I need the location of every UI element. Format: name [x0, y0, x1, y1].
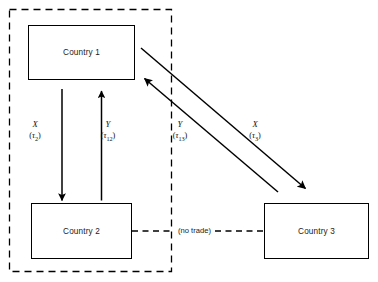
- node-country-2[interactable]: Country 2: [31, 203, 132, 259]
- flow-good-y-tau12: Y: [93, 118, 123, 130]
- flow-tariff-y-tau12: (τ12): [93, 130, 123, 144]
- flow-tariff-y-tau13: (τ13): [165, 130, 195, 144]
- tau-subscript-y-tau12: 12: [106, 135, 112, 142]
- flow-label-y-tau12: Y (τ12): [93, 118, 123, 144]
- flow-label-y-tau13: Y (τ13): [165, 118, 195, 144]
- flow-good-y-tau13: Y: [165, 118, 195, 130]
- flow-tariff-x-tau3: (τ3): [242, 130, 268, 144]
- node-country-1[interactable]: Country 1: [28, 25, 135, 80]
- no-trade-label: (no trade): [176, 226, 213, 235]
- diagram-canvas: Country 1 Country 2 Country 3 X (τ2) Y (…: [0, 0, 378, 282]
- flow-good-x-tau2: X: [22, 118, 48, 130]
- tau-subscript-x-tau2: 2: [35, 135, 38, 142]
- flow-tariff-x-tau2: (τ2): [22, 130, 48, 144]
- flow-label-x-tau3: X (τ3): [242, 118, 268, 144]
- node-country-3[interactable]: Country 3: [264, 203, 369, 259]
- tau-subscript-y-tau13: 13: [178, 135, 184, 142]
- node-country-1-label: Country 1: [63, 48, 100, 57]
- node-country-3-label: Country 3: [298, 227, 335, 236]
- flow-good-x-tau3: X: [242, 118, 268, 130]
- tau-subscript-x-tau3: 3: [255, 135, 258, 142]
- node-country-2-label: Country 2: [63, 227, 100, 236]
- flow-label-x-tau2: X (τ2): [22, 118, 48, 144]
